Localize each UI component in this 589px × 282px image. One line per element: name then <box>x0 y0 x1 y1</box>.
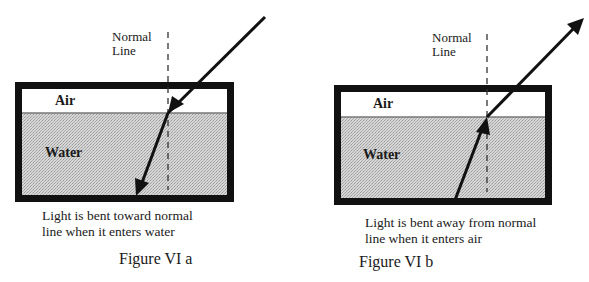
caption-line2: line when it enters water <box>42 224 193 240</box>
air-label-a: Air <box>55 93 75 109</box>
air-label-b: Air <box>373 96 393 112</box>
caption-line1: Light is bent toward normal <box>42 208 193 224</box>
figure-title-a: Figure VI a <box>119 250 192 268</box>
caption-b: Light is bent away from normal line when… <box>365 215 536 247</box>
normal-line-label-a: Normal Line <box>112 30 152 58</box>
water-label-b: Water <box>363 147 400 163</box>
water-label-a: Water <box>45 145 82 161</box>
normal-label-line1: Normal <box>432 31 472 45</box>
caption-a: Light is bent toward normal line when it… <box>42 208 193 240</box>
caption-line1: Light is bent away from normal <box>365 215 536 231</box>
normal-label-line2: Line <box>432 45 472 59</box>
normal-line-label-b: Normal Line <box>432 31 472 59</box>
caption-line2: line when it enters air <box>365 231 536 247</box>
normal-label-line1: Normal <box>112 30 152 44</box>
normal-label-line2: Line <box>112 44 152 58</box>
figure-title-b: Figure VI b <box>359 253 433 271</box>
